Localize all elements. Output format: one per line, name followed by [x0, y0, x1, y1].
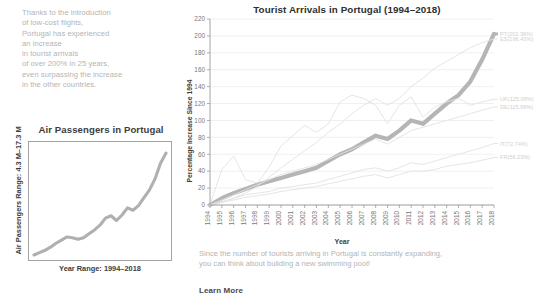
x-tick-label: 2000: [275, 211, 282, 226]
y-tick-label: 200: [194, 32, 205, 39]
y-tick-label: 180: [194, 49, 205, 56]
air-passengers-chart: Air Passengers in Portugal Air Passenger…: [0, 124, 182, 284]
infographic-root: Thanks to the introduction of low-cost f…: [0, 0, 554, 306]
x-tick-label: 2006: [346, 211, 353, 226]
series-line-es: [210, 39, 494, 205]
intro-paragraph: Thanks to the introduction of low-cost f…: [22, 8, 180, 90]
air-passengers-plot: [28, 141, 172, 261]
x-tick-label: 1999: [263, 211, 270, 226]
intro-line: even surpassing the increase: [22, 70, 180, 80]
legend-label-it: IT(72.74%): [500, 141, 528, 147]
intro-line: an increase: [22, 39, 180, 49]
x-tick-label: 2015: [453, 211, 460, 226]
x-tick-label: 2005: [334, 211, 341, 226]
tourist-arrivals-y-axis-label: Percentage Increase Since 1994: [186, 79, 194, 182]
y-tick-label: 80: [198, 134, 206, 141]
series-line-it: [210, 144, 494, 206]
legend-label-fr: FR(56.23%): [500, 154, 530, 160]
x-tick-label: 2014: [441, 211, 448, 226]
intro-line: of low-cost flights,: [22, 18, 180, 28]
x-tick-label: 2016: [464, 211, 471, 226]
outro-paragraph: Since the number of tourists arriving in…: [199, 249, 539, 270]
intro-line: Portugal has experienced: [22, 29, 180, 39]
tourist-arrivals-chart: 020406080100120140160180200220 199419951…: [182, 13, 554, 248]
x-tick-label: 2009: [382, 211, 389, 226]
y-tick-label: 20: [198, 184, 206, 191]
right-column: Tourist Arrivals in Portugal (1994–2018)…: [182, 0, 554, 306]
y-tick-label: 100: [194, 117, 205, 124]
y-tick-label: 60: [198, 151, 206, 158]
legend-group: PT(202.36%)ES(196.43%)UK(125.08%)DE(115.…: [494, 31, 534, 161]
y-tick-label: 120: [194, 100, 205, 107]
outro-line: Since the number of tourists arriving in…: [199, 249, 539, 259]
air-passengers-y-axis-label: Air Passengers Range: 4.3 M–17.3 M: [14, 121, 23, 261]
x-tick-label: 2011: [405, 211, 412, 225]
legend-label-es: ES(196.43%): [500, 36, 533, 42]
x-tick-label: 1997: [240, 211, 247, 226]
intro-line: in the other countries.: [22, 80, 180, 90]
y-tick-label: 0: [201, 201, 205, 208]
x-tick-label: 2013: [429, 211, 436, 226]
air-passengers-x-axis-label: Year Range: 1994–2018: [28, 264, 172, 273]
x-tick-label: 2001: [287, 211, 294, 226]
y-axis-ticks-group: 020406080100120140160180200220: [194, 15, 210, 208]
y-tick-label: 140: [194, 83, 205, 90]
intro-line: Thanks to the introduction: [22, 8, 180, 18]
x-tick-label: 2004: [322, 211, 329, 226]
left-column: Thanks to the introduction of low-cost f…: [0, 0, 182, 306]
x-tick-label: 2008: [370, 211, 377, 226]
x-tick-label: 2018: [488, 211, 495, 226]
y-tick-label: 220: [194, 15, 205, 22]
x-tick-label: 2010: [393, 211, 400, 226]
x-tick-label: 2017: [476, 211, 483, 226]
intro-line: in tourist arrivals: [22, 49, 180, 59]
outro-line: you can think about building a new swimm…: [199, 259, 539, 269]
x-tick-label: 1994: [204, 211, 211, 226]
tourist-arrivals-x-axis-label: Year: [335, 238, 350, 245]
x-tick-label: 1995: [216, 211, 223, 226]
legend-label-uk: UK(125.08%): [500, 96, 534, 102]
learn-more-link[interactable]: Learn More: [199, 286, 243, 295]
x-tick-label: 2003: [311, 211, 318, 226]
gridlines-group: [210, 19, 494, 205]
y-tick-label: 40: [198, 167, 206, 174]
x-tick-label: 2007: [358, 211, 365, 226]
x-tick-label: 1998: [251, 211, 258, 226]
air-passengers-plot-frame: [29, 142, 172, 261]
x-tick-label: 2012: [417, 211, 424, 226]
intro-line: of over 200% in 25 years,: [22, 59, 180, 69]
x-tick-label: 2002: [299, 211, 306, 226]
x-axis-ticks-group: 1994199519961997199819992000200120022003…: [204, 205, 495, 225]
y-tick-label: 160: [194, 66, 205, 73]
legend-label-de: DE(115.98%): [500, 104, 533, 110]
air-passengers-chart-title: Air Passengers in Portugal: [26, 124, 176, 135]
x-tick-label: 1996: [228, 211, 235, 226]
series-group: [210, 34, 494, 205]
